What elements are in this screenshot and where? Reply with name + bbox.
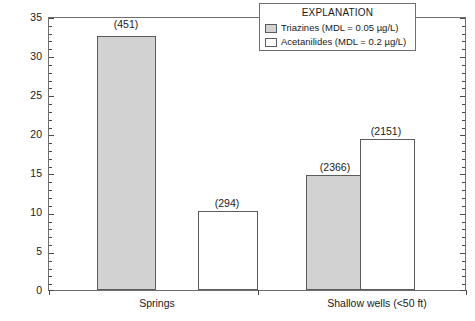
bar-label-springs-triazines: (451)	[76, 18, 176, 30]
y-major-tick-right-35	[460, 18, 465, 19]
y-tick-label-15: 15	[12, 168, 42, 179]
y-tick-label-25: 25	[12, 90, 42, 101]
y-major-tick-right-5	[460, 253, 465, 254]
y-minor-tick-right-7	[462, 237, 465, 238]
y-minor-tick-right-3	[462, 269, 465, 270]
legend-swatch-white-icon	[265, 38, 277, 47]
y-minor-tick-left-8	[49, 229, 52, 230]
y-minor-tick-left-12	[49, 198, 52, 199]
y-minor-tick-left-34	[49, 26, 52, 27]
y-major-tick-right-30	[460, 57, 465, 58]
y-minor-tick-left-29	[49, 65, 52, 66]
y-minor-tick-right-17	[462, 159, 465, 160]
y-major-tick-5	[49, 253, 54, 254]
y-minor-tick-right-8	[462, 229, 465, 230]
y-tick-label-0: 0	[12, 285, 42, 296]
y-minor-tick-right-34	[462, 26, 465, 27]
herbicide-detection-bar-chart: Frequency of Herbicide Detection, in Per…	[0, 0, 475, 321]
y-minor-tick-right-29	[462, 65, 465, 66]
y-minor-tick-right-32	[462, 41, 465, 42]
bar-label-shallowwells-triazines: (2366)	[280, 161, 390, 173]
legend-entry-acetanilides: Acetanilides (MDL = 0.2 µg/L)	[265, 35, 410, 49]
y-minor-tick-left-2	[49, 276, 52, 277]
y-minor-tick-left-19	[49, 143, 52, 144]
y-minor-tick-right-1	[462, 284, 465, 285]
y-tick-label-20: 20	[12, 129, 42, 140]
y-minor-tick-left-27	[49, 81, 52, 82]
y-major-tick-30	[49, 57, 54, 58]
y-major-tick-15	[49, 174, 54, 175]
y-major-tick-35	[49, 18, 54, 19]
y-minor-tick-right-24	[462, 104, 465, 105]
y-minor-tick-left-22	[49, 120, 52, 121]
y-tick-label-5: 5	[12, 246, 42, 257]
bar-springs-triazines[interactable]	[97, 36, 156, 290]
y-minor-tick-right-12	[462, 198, 465, 199]
x-tick-group-sep	[258, 290, 259, 295]
legend-entry-triazines: Triazines (MDL = 0.05 µg/L)	[265, 21, 410, 35]
y-major-tick-10	[49, 214, 54, 215]
y-minor-tick-left-33	[49, 34, 52, 35]
bar-springs-acetanilides[interactable]	[198, 211, 258, 290]
y-minor-tick-left-11	[49, 206, 52, 207]
y-minor-tick-left-3	[49, 269, 52, 270]
y-minor-tick-right-13	[462, 190, 465, 191]
y-minor-tick-right-31	[462, 49, 465, 50]
y-minor-tick-left-32	[49, 41, 52, 42]
y-minor-tick-right-19	[462, 143, 465, 144]
y-major-tick-right-10	[460, 214, 465, 215]
bar-label-springs-acetanilides: (294)	[177, 197, 277, 209]
y-tick-label-10: 10	[12, 207, 42, 218]
y-minor-tick-left-13	[49, 190, 52, 191]
y-minor-tick-right-26	[462, 88, 465, 89]
y-minor-tick-left-26	[49, 88, 52, 89]
x-tick-right-edge	[466, 290, 467, 295]
y-minor-tick-right-28	[462, 73, 465, 74]
legend-label-acetanilides: Acetanilides (MDL = 0.2 µg/L)	[281, 35, 406, 49]
y-minor-tick-right-11	[462, 206, 465, 207]
y-minor-tick-left-16	[49, 167, 52, 168]
y-minor-tick-right-16	[462, 167, 465, 168]
y-minor-tick-left-18	[49, 151, 52, 152]
y-major-tick-right-20	[460, 135, 465, 136]
y-major-tick-right-25	[460, 96, 465, 97]
y-minor-tick-right-9	[462, 222, 465, 223]
legend-label-triazines: Triazines (MDL = 0.05 µg/L)	[281, 21, 399, 35]
legend-title: EXPLANATION	[265, 7, 410, 19]
x-category-label-shallow-wells: Shallow wells (<50 ft)	[289, 297, 465, 309]
y-minor-tick-left-6	[49, 245, 52, 246]
legend: EXPLANATION Triazines (MDL = 0.05 µg/L) …	[259, 3, 416, 51]
y-minor-tick-right-6	[462, 245, 465, 246]
y-minor-tick-right-14	[462, 182, 465, 183]
y-major-tick-20	[49, 135, 54, 136]
y-tick-label-35: 35	[12, 12, 42, 23]
y-minor-tick-left-14	[49, 182, 52, 183]
y-minor-tick-left-4	[49, 261, 52, 262]
y-minor-tick-left-28	[49, 73, 52, 74]
y-minor-tick-left-23	[49, 112, 52, 113]
y-minor-tick-left-24	[49, 104, 52, 105]
y-minor-tick-left-17	[49, 159, 52, 160]
y-minor-tick-right-33	[462, 34, 465, 35]
y-minor-tick-right-4	[462, 261, 465, 262]
y-minor-tick-left-7	[49, 237, 52, 238]
bar-label-shallowwells-acetanilides: (2151)	[331, 125, 441, 137]
legend-swatch-gray-icon	[265, 24, 277, 33]
y-minor-tick-right-27	[462, 81, 465, 82]
y-minor-tick-left-9	[49, 222, 52, 223]
y-tick-label-30: 30	[12, 51, 42, 62]
y-minor-tick-left-1	[49, 284, 52, 285]
y-minor-tick-right-23	[462, 112, 465, 113]
y-major-tick-right-0	[460, 290, 465, 291]
y-minor-tick-right-2	[462, 276, 465, 277]
x-tick-left-edge	[49, 290, 50, 295]
y-major-tick-right-15	[460, 174, 465, 175]
y-minor-tick-left-31	[49, 49, 52, 50]
x-category-label-springs: Springs	[97, 297, 217, 309]
y-minor-tick-right-18	[462, 151, 465, 152]
y-minor-tick-right-22	[462, 120, 465, 121]
plot-area	[48, 17, 466, 291]
y-minor-tick-right-21	[462, 128, 465, 129]
bar-shallowwells-triazines[interactable]	[306, 175, 365, 290]
y-major-tick-25	[49, 96, 54, 97]
